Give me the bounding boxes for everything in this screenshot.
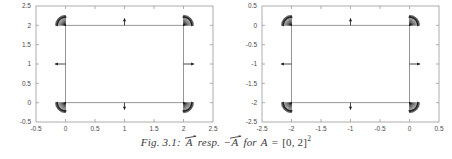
svg-text:1.5: 1.5 [149,125,158,132]
svg-text:-1.5: -1.5 [246,80,258,87]
caption-vector-a-2: A [230,136,239,148]
figure-caption: Fig. 3.1:Aresp.−AforA=[0, 2]2 [0,134,452,148]
svg-text:-0.5: -0.5 [246,41,258,48]
caption-variable-a: A [261,136,268,148]
svg-text:-0.5: -0.5 [374,125,386,132]
svg-text:0.5: 0.5 [90,125,99,132]
caption-prefix: Fig. 3.1: [141,136,181,148]
svg-text:-0.5: -0.5 [20,118,32,125]
svg-text:1: 1 [27,60,31,67]
svg-text:-2.5: -2.5 [246,118,258,125]
svg-text:0.5: 0.5 [22,80,31,87]
svg-text:2: 2 [27,22,31,29]
svg-text:-0.5: -0.5 [30,125,42,132]
vector-field-plot-right: -2.5-2-1.5-1-0.500.5-2.5-2-1.5-1-0.500.5 [226,0,452,136]
svg-text:-1: -1 [251,60,257,67]
caption-equals: = [272,136,278,148]
svg-text:0: 0 [27,99,31,106]
svg-text:2.5: 2.5 [22,2,31,9]
svg-text:0: 0 [64,125,68,132]
caption-exponent: 2 [307,134,311,143]
svg-text:0.5: 0.5 [248,2,257,9]
svg-text:-2.5: -2.5 [256,125,268,132]
svg-text:1: 1 [123,125,127,132]
svg-text:2: 2 [182,125,186,132]
plot-panel-right: -2.5-2-1.5-1-0.500.5-2.5-2-1.5-1-0.500.5 [226,0,452,136]
caption-resp: resp. [198,136,220,148]
caption-vec1-letter: A [186,136,193,148]
svg-text:-1: -1 [348,125,354,132]
svg-text:-2: -2 [251,99,257,106]
caption-interval: [0, 2] [282,136,307,148]
svg-text:0: 0 [408,125,412,132]
svg-text:-1.5: -1.5 [315,125,327,132]
svg-text:0: 0 [253,22,257,29]
plot-panel-left: -0.500.511.522.5-0.500.511.522.5 [0,0,226,136]
caption-vec2-letter: A [231,136,238,148]
caption-vector-a-1: A [185,136,194,148]
svg-text:0.5: 0.5 [434,125,443,132]
svg-text:2.5: 2.5 [208,125,217,132]
caption-for: for [243,136,256,148]
svg-text:1.5: 1.5 [22,41,31,48]
figure-3-1: -0.500.511.522.5-0.500.511.522.5 -2.5-2-… [0,0,452,159]
vector-field-plot-left: -0.500.511.522.5-0.500.511.522.5 [0,0,226,136]
svg-text:-2: -2 [289,125,295,132]
